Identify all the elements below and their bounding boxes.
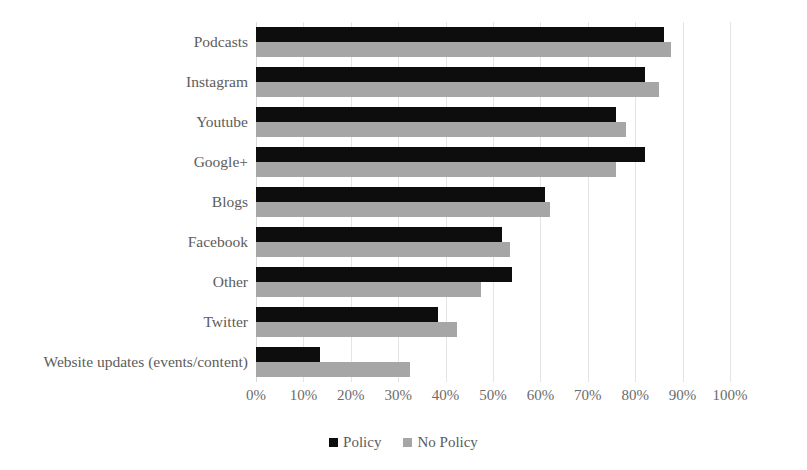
x-tick-label: 90% (669, 388, 697, 403)
category-label: Instagram (8, 74, 248, 90)
x-tick-label: 70% (574, 388, 602, 403)
x-tick-label: 80% (621, 388, 649, 403)
category-axis-labels: PodcastsInstagramYoutubeGoogle+BlogsFace… (8, 22, 248, 382)
category-label: Podcasts (8, 34, 248, 50)
bar (256, 107, 616, 122)
legend-swatch-icon (329, 438, 338, 447)
x-tick-label: 60% (527, 388, 555, 403)
bar (256, 147, 645, 162)
category-label: Google+ (8, 154, 248, 170)
bar (256, 267, 512, 282)
category-label: Twitter (8, 314, 248, 330)
legend-label: No Policy (417, 435, 477, 450)
plot-area (256, 22, 730, 382)
x-axis-tick-labels: 0%10%20%30%40%50%60%70%80%90%100% (256, 388, 730, 410)
legend-item[interactable]: No Policy (403, 435, 477, 450)
x-tick-label: 40% (432, 388, 460, 403)
bar (256, 162, 616, 177)
category-label: Website updates (events/content) (8, 354, 248, 370)
category-label: Youtube (8, 114, 248, 130)
chart-legend: PolicyNo Policy (0, 430, 807, 454)
bar (256, 122, 626, 137)
bar (256, 307, 438, 322)
bar (256, 202, 550, 217)
x-tick-label: 0% (246, 388, 266, 403)
bar (256, 322, 457, 337)
bar (256, 27, 664, 42)
bar-chart: PodcastsInstagramYoutubeGoogle+BlogsFace… (0, 0, 807, 470)
gridline-90% (683, 22, 684, 382)
x-tick-label: 30% (384, 388, 412, 403)
legend-item[interactable]: Policy (329, 435, 381, 450)
bar (256, 282, 481, 297)
bar (256, 362, 410, 377)
legend-swatch-icon (403, 438, 412, 447)
category-label: Facebook (8, 234, 248, 250)
x-tick-label: 10% (290, 388, 318, 403)
legend-label: Policy (343, 435, 381, 450)
bar (256, 82, 659, 97)
bar (256, 187, 545, 202)
bar (256, 42, 671, 57)
x-tick-label: 20% (337, 388, 365, 403)
category-label: Blogs (8, 194, 248, 210)
bar (256, 227, 502, 242)
x-tick-label: 50% (479, 388, 507, 403)
chart-plot-wrapper: PodcastsInstagramYoutubeGoogle+BlogsFace… (0, 0, 807, 470)
bar (256, 347, 320, 362)
gridline-100% (730, 22, 731, 382)
bar (256, 242, 510, 257)
category-label: Other (8, 274, 248, 290)
x-tick-label: 100% (713, 388, 748, 403)
bar (256, 67, 645, 82)
